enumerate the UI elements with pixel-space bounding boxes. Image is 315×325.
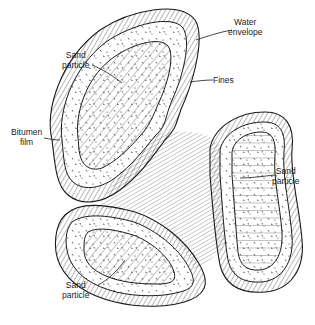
label-sand-particle-right: Sand particle	[272, 166, 299, 186]
oil-sand-diagram	[0, 0, 315, 325]
label-bitumen-film: Bitumen film	[11, 127, 42, 147]
sand-grain-right	[210, 112, 302, 292]
label-water-envelope: Water envelope	[228, 17, 263, 37]
leader-fines	[190, 80, 213, 82]
label-sand-particle-top: Sand particle	[62, 50, 89, 70]
label-sand-particle-bottom: Sand particle	[62, 280, 89, 300]
label-fines: Fines	[213, 75, 234, 85]
leader-water-envelope	[196, 30, 232, 40]
sand-particle-core	[232, 132, 282, 270]
